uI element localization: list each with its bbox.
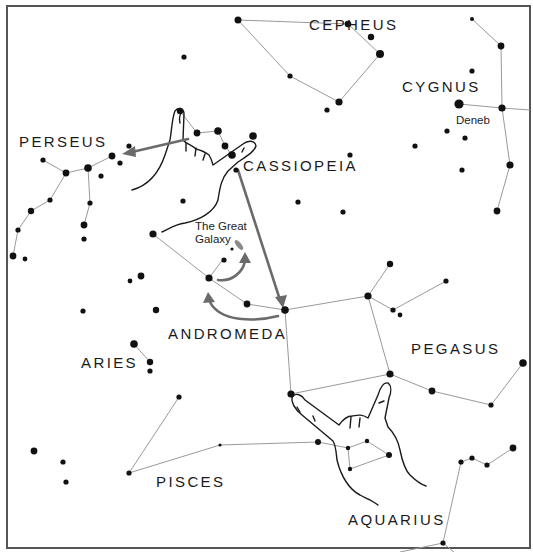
- cygnus-wing: [459, 104, 530, 110]
- label-andromeda: ANDROMEDA: [168, 325, 287, 342]
- great-galaxy-icon: [233, 239, 245, 251]
- label-pegasus: PEGASUS: [411, 340, 500, 357]
- label-great-galaxy-1: The Great: [195, 220, 248, 232]
- label-perseus: PERSEUS: [19, 133, 108, 150]
- label-aries: ARIES: [81, 354, 138, 371]
- labels: CEPHEUS CYGNUS Deneb PERSEUS CASSIOPEIA …: [19, 16, 500, 528]
- perseus-main: [43, 156, 112, 173]
- label-great-galaxy-2: Galaxy: [195, 233, 231, 245]
- arrowhead-icon: [239, 252, 251, 263]
- pegasus-legs: [368, 264, 446, 310]
- pegasus-square: [285, 296, 390, 394]
- aquarius-circlet: [348, 441, 389, 469]
- label-aquarius: AQUARIUS: [348, 511, 446, 528]
- andromeda-lines: [153, 234, 285, 310]
- label-deneb: Deneb: [456, 114, 490, 126]
- perseus-down: [84, 168, 90, 225]
- pegasus-neck: [390, 363, 523, 405]
- deneb-star: [454, 99, 463, 108]
- label-cygnus: CYGNUS: [402, 78, 481, 95]
- arrow-to-galaxy: [218, 261, 245, 280]
- constellation-lines: [13, 19, 530, 552]
- pisces-lines: [129, 397, 220, 473]
- arrowhead-icon: [275, 295, 287, 308]
- arrowhead-icon: [203, 292, 215, 303]
- aquarius-tail: [443, 448, 513, 552]
- aquarius-link: [220, 442, 348, 448]
- arrow-to-perseus: [132, 139, 188, 152]
- perseus-left: [13, 173, 66, 256]
- stars: [10, 17, 527, 546]
- arrow-to-andromeda: [238, 170, 280, 300]
- star-chart: CEPHEUS CYGNUS Deneb PERSEUS CASSIOPEIA …: [0, 0, 533, 552]
- label-cepheus: CEPHEUS: [309, 16, 398, 33]
- label-pisces: PISCES: [156, 473, 225, 490]
- label-cassiopeia: CASSIOPEIA: [243, 157, 358, 174]
